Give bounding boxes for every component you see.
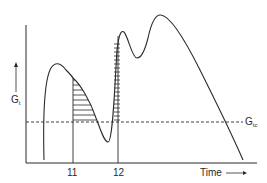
x-axis-label: Time	[200, 168, 222, 178]
gt-curve	[44, 15, 243, 160]
y-arrowhead-icon	[14, 62, 18, 67]
x-tick-t1: 11	[67, 168, 77, 178]
y-axis-label: Gt	[11, 95, 20, 106]
hatched-region-1	[73, 80, 100, 120]
y-axis-label-sub: t	[19, 100, 21, 106]
y-axis-label-main: G	[11, 94, 19, 105]
threshold-label-sub: tc	[253, 122, 258, 128]
x-tick-t2: 12	[113, 168, 124, 178]
threshold-label: Gtc	[245, 117, 257, 128]
diagram-canvas	[0, 0, 267, 183]
threshold-label-main: G	[245, 116, 253, 127]
time-arrowhead-icon	[243, 171, 247, 175]
